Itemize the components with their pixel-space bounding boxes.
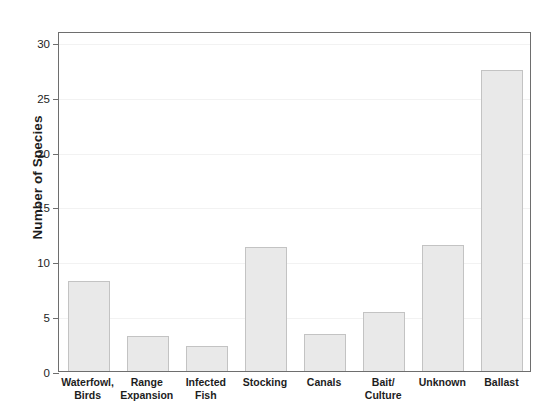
bar (363, 312, 405, 371)
y-tick-label: 15 (37, 202, 50, 214)
x-tick-label-line: Ballast (466, 376, 537, 389)
bars-layer (59, 33, 530, 371)
x-tick-label-line: Fish (170, 389, 241, 402)
bar (68, 281, 110, 371)
x-axis-labels: Waterfowl,BirdsRangeExpansionInfectedFis… (58, 376, 531, 411)
bar-chart-figure: Number of Species 051015202530 Waterfowl… (0, 0, 549, 411)
plot-area: 051015202530 (58, 32, 531, 372)
bar (422, 245, 464, 371)
y-tick-label: 0 (44, 367, 50, 379)
y-tick-label: 25 (37, 93, 50, 105)
y-tick-label: 10 (37, 257, 50, 269)
y-tick-label: 20 (37, 148, 50, 160)
bar (127, 336, 169, 371)
x-tick-label-line: Culture (348, 389, 419, 402)
y-tick-label: 5 (44, 312, 50, 324)
bar (304, 334, 346, 371)
bar (186, 346, 228, 371)
y-tick-mark (53, 373, 59, 374)
bar (481, 70, 523, 371)
x-tick-label: Ballast (466, 376, 537, 389)
bar (245, 247, 287, 371)
y-axis-title: Number of Species (30, 83, 45, 273)
y-tick-label: 30 (37, 38, 50, 50)
